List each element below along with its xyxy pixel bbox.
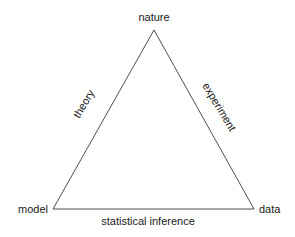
vertex-label-model: model [18,204,48,215]
edge-label-statistical-inference: statistical inference [101,216,195,227]
triangle-shape [0,0,295,237]
triangle-diagram: nature model data theory experiment stat… [0,0,295,237]
edge-experiment-line [154,30,254,209]
vertex-label-nature: nature [138,12,169,23]
vertex-label-data: data [259,204,280,215]
edge-theory-line [53,30,154,209]
